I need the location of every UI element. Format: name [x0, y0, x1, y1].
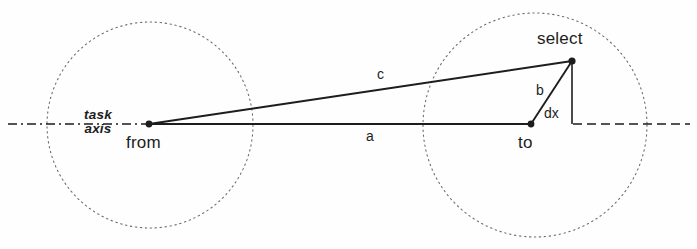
point-select-label: select	[537, 30, 583, 47]
point-select	[568, 57, 575, 64]
task-axis-label-line2: axis	[70, 122, 126, 136]
diagram-root: task axis from to select a b c dx	[0, 0, 697, 249]
point-from	[146, 121, 153, 128]
point-from-label: from	[126, 134, 161, 151]
point-to	[528, 121, 535, 128]
task-axis-label: task axis	[70, 108, 126, 136]
task-axis-label-line1: task	[70, 108, 126, 122]
segment-b-label: b	[536, 83, 544, 97]
segment-dx-label: dx	[544, 106, 559, 120]
point-to-label: to	[518, 134, 533, 151]
to-circle	[423, 13, 647, 237]
segment-c-label: c	[377, 67, 384, 81]
segment-c	[149, 61, 572, 124]
segment-a-label: a	[366, 129, 374, 143]
